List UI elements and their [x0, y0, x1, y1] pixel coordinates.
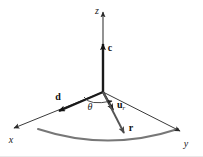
y-axis-label: y [183, 138, 189, 149]
vector-u-r-label-subscript: r [123, 104, 126, 112]
figure-container: z x y c d ur r θ [0, 0, 203, 157]
vector-diagram: z x y c d ur r θ [0, 0, 203, 157]
vector-u-r-label: ur [117, 99, 126, 112]
bottom-divider [0, 156, 203, 157]
base-arc [38, 129, 178, 141]
theta-label: θ [88, 101, 93, 112]
vector-d-label: d [55, 91, 61, 102]
vector-d-line [59, 92, 103, 111]
y-axis-line [103, 92, 180, 131]
vector-c-label: c [108, 42, 113, 53]
x-axis-label: x [8, 134, 14, 145]
vector-r-label: r [129, 122, 134, 133]
z-axis-label: z [94, 5, 99, 16]
